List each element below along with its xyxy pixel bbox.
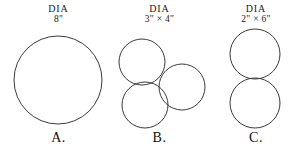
group-a-letter-label: A. (0, 130, 117, 146)
circle-c-1 (230, 29, 280, 79)
circle-group-b: DIA 3" × 4" B. (107, 0, 212, 156)
group-c-letter-label: C. (205, 130, 307, 146)
circle-b-1 (119, 39, 165, 85)
circle-group-c: DIA 2" × 6" C. (205, 0, 307, 156)
circle-group-a: DIA 8" A. (0, 0, 117, 156)
circle-diameter-figure: DIA 8" A. DIA 3" × 4" B. DIA 2" × 6" (0, 0, 307, 156)
circle-b-3 (122, 82, 168, 128)
circle-a-1 (14, 36, 102, 124)
circle-c-2 (230, 78, 280, 128)
group-b-letter-label: B. (107, 130, 212, 146)
circle-b-2 (159, 64, 205, 110)
